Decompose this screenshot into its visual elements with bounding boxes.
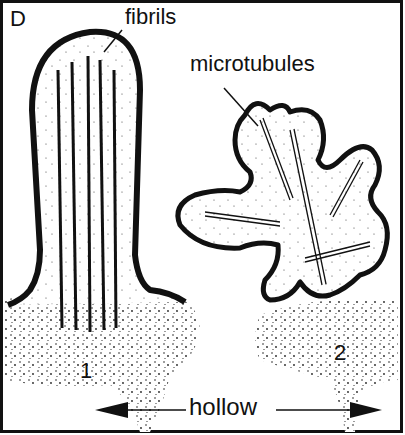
hollow-arrow-left-head — [95, 402, 128, 418]
stipple-mass-2 — [255, 300, 398, 432]
panel-label: D — [10, 8, 26, 30]
structure-2-label: 2 — [334, 342, 346, 364]
diagram-frame: D fibrils microtubules 1 2 hollow — [0, 0, 405, 435]
projection-1-outline — [8, 32, 185, 305]
microtubules-label: microtubules — [190, 53, 315, 75]
hollow-arrow-right-head — [350, 402, 382, 418]
hollow-label: hollow — [186, 395, 260, 419]
fibrils-label: fibrils — [125, 6, 176, 28]
structure-1-label: 1 — [80, 360, 92, 382]
projection-2-outline — [178, 104, 387, 300]
